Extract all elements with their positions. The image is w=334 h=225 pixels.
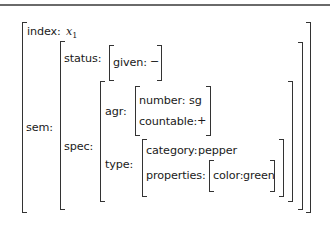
category-label: category: bbox=[146, 144, 198, 157]
outer-right-bracket bbox=[306, 22, 311, 213]
agr-label: agr: bbox=[105, 105, 127, 118]
status-label: status: bbox=[64, 52, 101, 65]
status-right-bracket bbox=[157, 45, 162, 81]
top-rule bbox=[0, 4, 330, 6]
index-value: x1 bbox=[66, 25, 77, 42]
index-label: index: bbox=[27, 25, 61, 38]
agr-right-bracket bbox=[206, 86, 211, 136]
category-value: pepper bbox=[198, 144, 237, 157]
countable-label: countable: bbox=[139, 115, 197, 128]
sem-right-bracket bbox=[298, 42, 303, 210]
countable-value: + bbox=[197, 114, 206, 127]
type-label: type: bbox=[105, 158, 133, 171]
number-label: number: bbox=[139, 94, 186, 107]
color-label: color: bbox=[213, 169, 244, 182]
properties-right-bracket bbox=[270, 160, 275, 192]
type-right-bracket bbox=[279, 139, 284, 197]
spec-left-bracket bbox=[100, 81, 105, 202]
properties-label: properties: bbox=[146, 169, 206, 182]
spec-right-bracket bbox=[288, 81, 293, 202]
sem-label: sem: bbox=[26, 121, 53, 134]
given-label: given: bbox=[113, 56, 147, 69]
outer-left-bracket bbox=[22, 22, 27, 213]
number-value: sg bbox=[189, 94, 202, 107]
sem-left-bracket bbox=[60, 41, 65, 210]
spec-label: spec: bbox=[64, 140, 93, 153]
